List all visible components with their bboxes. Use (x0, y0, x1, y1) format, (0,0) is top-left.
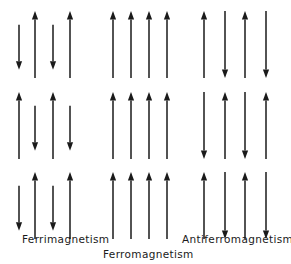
arrowhead (50, 61, 56, 70)
arrow-down-long (222, 172, 228, 239)
arrow-down-short (50, 186, 56, 231)
arrow-up-long (146, 172, 152, 239)
arrowhead (50, 222, 56, 231)
arrow-row (201, 92, 269, 159)
arrowhead (164, 92, 170, 101)
arrowhead (67, 172, 73, 181)
arrow-up-long (110, 172, 116, 239)
arrowhead (263, 92, 269, 101)
arrowhead (16, 222, 22, 231)
arrow-down-short (67, 106, 73, 151)
arrow-row (16, 11, 73, 78)
arrow-lattice-canvas (0, 0, 291, 264)
arrow-down-long (263, 172, 269, 239)
arrowhead (16, 61, 22, 70)
magnetic-ordering-figure: Ferrimagnetism Ferromagnetism Antiferrom… (0, 0, 291, 264)
arrow-up-long (164, 172, 170, 239)
arrowhead (32, 172, 38, 181)
arrow-up-long (128, 11, 134, 78)
label-antiferromagnetism: Antiferromagnetism (182, 234, 291, 245)
arrowhead (263, 70, 269, 79)
arrow-down-long (242, 92, 248, 159)
arrowhead (110, 11, 116, 20)
arrowhead (146, 11, 152, 20)
arrow-up-long (242, 172, 248, 239)
arrow-up-long (50, 92, 56, 159)
arrowhead (67, 11, 73, 20)
arrowhead (242, 172, 248, 181)
arrow-up-long (16, 92, 22, 159)
arrow-group-ferrimagnetism (16, 11, 73, 239)
arrowhead (128, 172, 134, 181)
arrow-row (16, 172, 73, 239)
arrowhead (110, 172, 116, 181)
arrowhead (164, 172, 170, 181)
arrow-down-short (32, 106, 38, 151)
arrowhead (32, 11, 38, 20)
arrowhead (164, 11, 170, 20)
arrowhead (128, 92, 134, 101)
arrow-up-long (201, 172, 207, 239)
arrowhead (222, 92, 228, 101)
arrow-down-short (50, 25, 56, 70)
arrowhead (201, 172, 207, 181)
arrowhead (110, 92, 116, 101)
arrow-down-short (16, 25, 22, 70)
arrowhead (242, 11, 248, 20)
arrowhead (201, 151, 207, 160)
arrowhead (67, 142, 73, 151)
arrowhead (128, 11, 134, 20)
arrow-row (110, 172, 170, 239)
arrow-up-long (110, 11, 116, 78)
arrow-up-long (164, 92, 170, 159)
arrowhead (146, 172, 152, 181)
arrow-up-long (146, 11, 152, 78)
arrow-row (16, 92, 73, 159)
arrow-row (110, 11, 170, 78)
arrow-row (201, 11, 269, 78)
arrow-up-long (263, 92, 269, 159)
arrow-up-long (146, 92, 152, 159)
arrow-row (201, 172, 269, 239)
arrowhead (222, 70, 228, 79)
label-ferrimagnetism: Ferrimagnetism (22, 234, 109, 245)
arrowhead (242, 151, 248, 160)
arrow-down-long (222, 11, 228, 78)
arrowhead (146, 92, 152, 101)
arrow-group-antiferromagnetism (201, 11, 269, 239)
arrow-row (110, 92, 170, 159)
arrow-up-long (32, 172, 38, 239)
arrow-up-long (201, 11, 207, 78)
arrow-up-long (242, 11, 248, 78)
arrow-up-long (110, 92, 116, 159)
arrow-down-long (201, 92, 207, 159)
arrow-up-long (32, 11, 38, 78)
arrow-up-long (164, 11, 170, 78)
arrow-up-long (128, 172, 134, 239)
arrowhead (16, 92, 22, 101)
arrow-down-long (263, 11, 269, 78)
arrow-down-short (16, 186, 22, 231)
arrowhead (32, 142, 38, 151)
arrow-up-long (222, 92, 228, 159)
arrowhead (201, 11, 207, 20)
arrow-up-long (67, 11, 73, 78)
arrow-up-long (128, 92, 134, 159)
label-ferromagnetism: Ferromagnetism (103, 249, 194, 260)
arrowhead (50, 92, 56, 101)
arrow-group-ferromagnetism (110, 11, 170, 239)
arrow-up-long (67, 172, 73, 239)
